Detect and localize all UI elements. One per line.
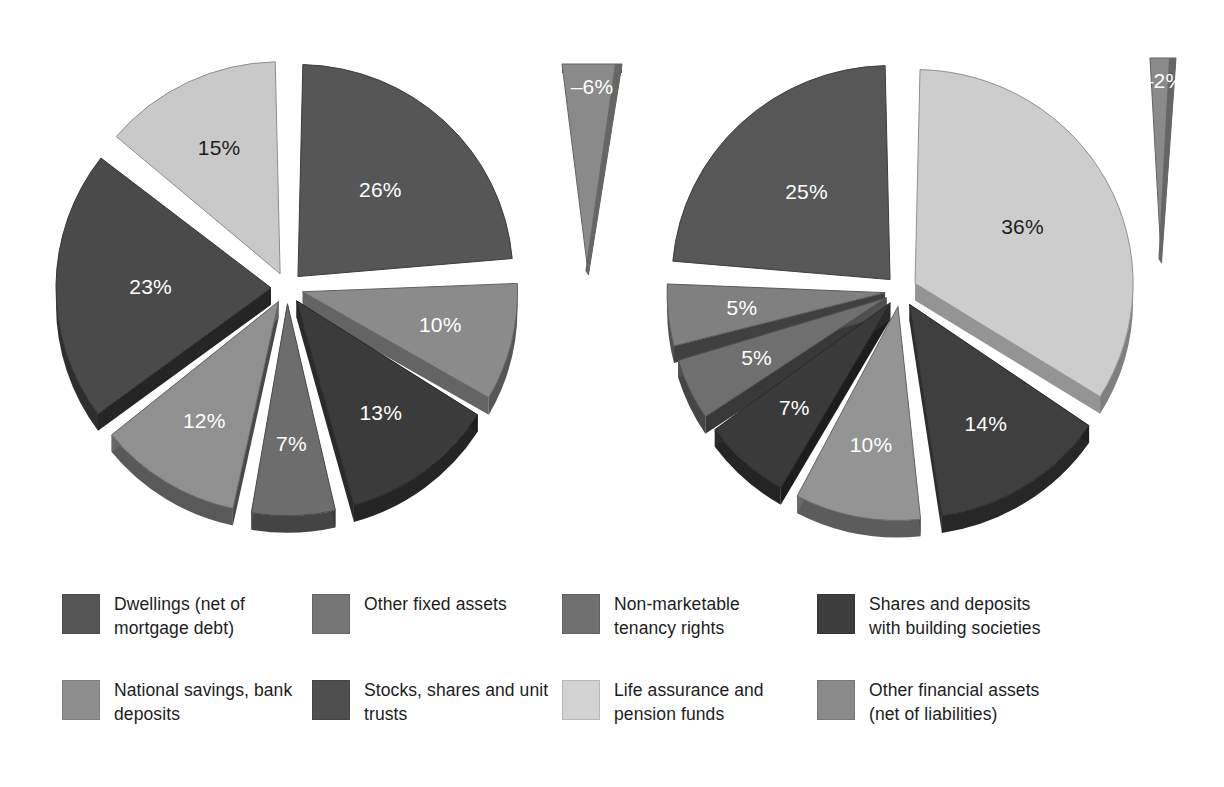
legend-label-other-financial-assets: Other financial assets (net of liabiliti…: [869, 678, 1059, 726]
legend-label-stocks-shares-unit-trusts: Stocks, shares and unit trusts: [364, 678, 554, 726]
right-pie-chart: 36%14%10%7%5%5%25%–2%: [667, 58, 1184, 537]
legend-item-life-assurance-pension-funds: Life assurance and pension funds: [562, 678, 817, 764]
legend-swatch-dwellings: [62, 594, 100, 634]
pie-slice[interactable]: [673, 66, 890, 280]
legend-swatch-other-financial-assets: [817, 680, 855, 720]
legend-item-other-fixed-assets: Other fixed assets: [312, 592, 562, 678]
legend-item-other-financial-assets: Other financial assets (net of liabiliti…: [817, 678, 1107, 764]
legend-label-shares-building-societies: Shares and deposits with building societ…: [869, 592, 1059, 640]
legend-swatch-national-savings: [62, 680, 100, 720]
legend: Dwellings (net of mortgage debt) Other f…: [0, 586, 1224, 787]
legend-swatch-life-assurance-pension-funds: [562, 680, 600, 720]
pie-charts-area: 26%10%13%7%12%23%15%–6% 36%14%10%7%5%5%2…: [0, 0, 1224, 580]
legend-label-non-marketable-tenancy-rights: Non-marketable tenancy rights: [614, 592, 804, 640]
legend-swatch-stocks-shares-unit-trusts: [312, 680, 350, 720]
legend-label-dwellings: Dwellings (net of mortgage debt): [114, 592, 304, 640]
left-pie-chart: 26%10%13%7%12%23%15%–6%: [56, 62, 622, 533]
legend-label-other-fixed-assets: Other fixed assets: [364, 592, 507, 616]
legend-item-stocks-shares-unit-trusts: Stocks, shares and unit trusts: [312, 678, 562, 764]
legend-item-non-marketable-tenancy-rights: Non-marketable tenancy rights: [562, 592, 817, 678]
legend-swatch-other-fixed-assets: [312, 594, 350, 634]
legend-item-shares-building-societies: Shares and deposits with building societ…: [817, 592, 1107, 678]
legend-label-life-assurance-pension-funds: Life assurance and pension funds: [614, 678, 804, 726]
legend-item-dwellings: Dwellings (net of mortgage debt): [62, 592, 312, 678]
legend-swatch-non-marketable-tenancy-rights: [562, 594, 600, 634]
legend-label-national-savings: National savings, bank deposits: [114, 678, 304, 726]
pie-charts-svg: 26%10%13%7%12%23%15%–6% 36%14%10%7%5%5%2…: [0, 0, 1224, 580]
pie-slice[interactable]: [298, 65, 512, 277]
legend-grid: Dwellings (net of mortgage debt) Other f…: [62, 592, 1224, 764]
legend-item-national-savings: National savings, bank deposits: [62, 678, 312, 764]
legend-swatch-shares-building-societies: [817, 594, 855, 634]
